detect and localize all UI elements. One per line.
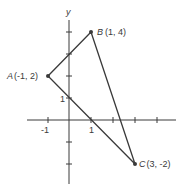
x-tick-label-neg1: -1 [41,125,49,135]
label-a: A(-1, 2) [6,71,38,81]
point-c [133,162,137,166]
label-b: B(1, 4) [97,27,126,37]
x-tick-label-1: 1 [89,125,94,135]
y-axis-label: y [65,7,71,17]
point-a [46,74,50,78]
point-b [89,30,93,34]
triangle-diagram: y -1 1 1 A(-1, 2) B(1, 4) C(3, -2) [0,0,179,194]
y-tick-label-1: 1 [60,94,65,104]
label-c: C(3, -2) [139,159,171,169]
